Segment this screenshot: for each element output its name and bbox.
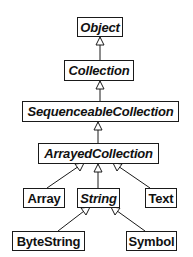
class-text: Text bbox=[145, 188, 177, 208]
class-collection: Collection bbox=[64, 60, 134, 81]
class-label: SequenceableCollection bbox=[28, 104, 174, 119]
class-label: Collection bbox=[69, 63, 130, 78]
class-label: ByteString bbox=[17, 234, 81, 249]
class-label: Text bbox=[149, 191, 174, 206]
class-string: String bbox=[77, 188, 120, 208]
class-label: String bbox=[80, 191, 116, 206]
edge-array-arrayed bbox=[47, 164, 82, 188]
class-array: Array bbox=[23, 188, 65, 208]
class-object: Object bbox=[77, 17, 123, 37]
class-sequenceable-collection: SequenceableCollection bbox=[22, 101, 179, 122]
class-bytestring: ByteString bbox=[12, 231, 85, 251]
class-arrayed-collection: ArrayedCollection bbox=[38, 143, 159, 164]
class-symbol: Symbol bbox=[126, 231, 177, 251]
class-label: ArrayedCollection bbox=[44, 146, 153, 161]
class-label: Object bbox=[80, 20, 119, 35]
class-label: Symbol bbox=[129, 234, 175, 249]
class-hierarchy-diagram: Object Collection SequenceableCollection… bbox=[0, 0, 193, 257]
class-label: Array bbox=[28, 191, 61, 206]
edge-text-arrayed bbox=[115, 164, 150, 188]
inheritance-edges bbox=[0, 0, 193, 257]
